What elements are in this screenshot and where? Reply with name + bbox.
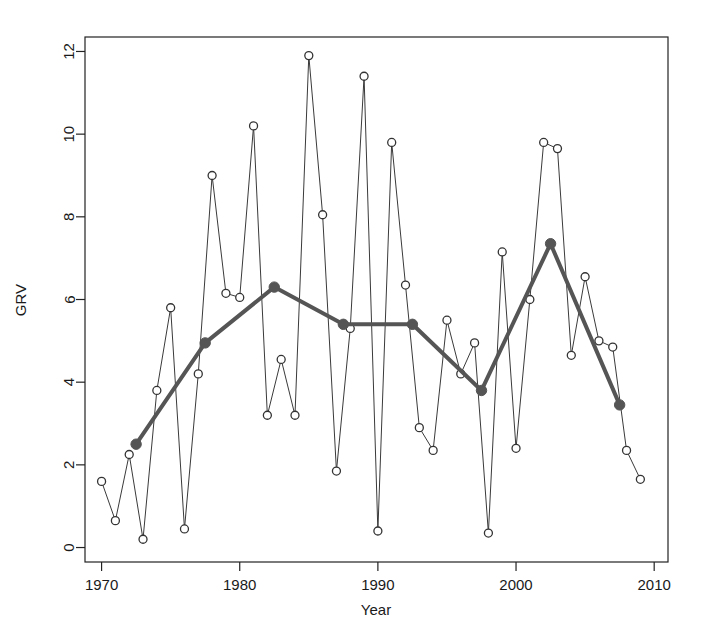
- data-point-marker: [374, 527, 382, 535]
- data-point-marker: [139, 535, 147, 543]
- data-point-marker: [407, 319, 417, 329]
- data-point-marker: [471, 339, 479, 347]
- data-point-marker: [443, 316, 451, 324]
- data-point-marker: [595, 337, 603, 345]
- data-point-marker: [180, 525, 188, 533]
- data-point-marker: [305, 52, 313, 60]
- data-point-marker: [540, 138, 548, 146]
- data-point-marker: [553, 145, 561, 153]
- y-tick-label: 8: [61, 213, 78, 221]
- x-tick-label: 2000: [499, 576, 532, 593]
- data-point-marker: [236, 293, 244, 301]
- data-point-marker: [614, 400, 624, 410]
- x-tick-label: 1980: [223, 576, 256, 593]
- x-tick-label: 2010: [637, 576, 670, 593]
- y-axis-title: GRV: [12, 284, 29, 316]
- data-point-marker: [98, 477, 106, 485]
- x-axis-title: Year: [361, 601, 391, 618]
- data-point-marker: [512, 444, 520, 452]
- data-point-marker: [319, 211, 327, 219]
- data-point-marker: [623, 446, 631, 454]
- data-point-marker: [402, 281, 410, 289]
- data-point-marker: [484, 529, 492, 537]
- grv-year-line-chart: 19701980199020002010 024681012 Year GRV: [0, 0, 702, 642]
- data-point-marker: [476, 385, 486, 395]
- data-point-marker: [269, 282, 279, 292]
- data-point-marker: [388, 138, 396, 146]
- y-tick-label: 12: [61, 43, 78, 60]
- data-point-marker: [200, 338, 210, 348]
- data-point-marker: [153, 386, 161, 394]
- y-tick-label: 2: [61, 461, 78, 469]
- y-tick-label: 10: [61, 126, 78, 143]
- data-point-marker: [250, 122, 258, 130]
- data-point-marker: [338, 319, 348, 329]
- data-point-marker: [498, 248, 506, 256]
- data-point-marker: [636, 475, 644, 483]
- y-tick-label: 4: [61, 378, 78, 386]
- data-point-marker: [125, 451, 133, 459]
- data-point-marker: [131, 439, 141, 449]
- x-tick-label: 1970: [85, 576, 118, 593]
- data-point-marker: [332, 467, 340, 475]
- data-point-marker: [277, 355, 285, 363]
- x-tick-label: 1990: [361, 576, 394, 593]
- data-point-marker: [415, 424, 423, 432]
- data-point-marker: [429, 446, 437, 454]
- data-point-marker: [609, 343, 617, 351]
- y-tick-label: 6: [61, 295, 78, 303]
- y-tick-label: 0: [61, 543, 78, 551]
- data-point-marker: [291, 411, 299, 419]
- data-point-marker: [545, 238, 555, 248]
- chart-container: 19701980199020002010 024681012 Year GRV: [0, 0, 702, 642]
- data-point-marker: [581, 273, 589, 281]
- data-point-marker: [111, 517, 119, 525]
- data-point-marker: [567, 351, 575, 359]
- data-point-marker: [360, 72, 368, 80]
- data-point-marker: [208, 171, 216, 179]
- data-point-marker: [222, 289, 230, 297]
- data-point-marker: [167, 304, 175, 312]
- data-point-marker: [263, 411, 271, 419]
- data-point-marker: [194, 370, 202, 378]
